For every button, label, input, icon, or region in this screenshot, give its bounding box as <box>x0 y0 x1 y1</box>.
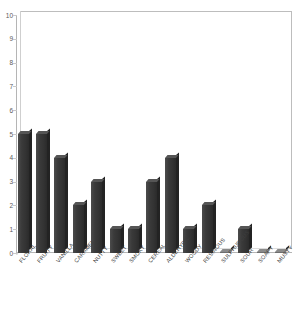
bar-group[interactable] <box>73 15 89 253</box>
bar-top-face <box>91 179 105 182</box>
bar-side-face <box>157 176 160 250</box>
x-axis-labels: FLORALFRUITYVANILLACARAMELNUTTYSWEETSMOK… <box>0 258 296 309</box>
y-axis-tick-label: 4 <box>0 154 13 161</box>
bar[interactable] <box>18 134 29 253</box>
bars-layer <box>16 15 292 253</box>
bar-side-face <box>29 128 32 250</box>
bar[interactable] <box>54 158 65 253</box>
y-axis-tick-label: 1 <box>0 226 13 233</box>
bar-group[interactable] <box>18 15 34 253</box>
bar-group[interactable] <box>238 15 254 253</box>
y-axis-tick-label: 10 <box>0 12 13 19</box>
bar-side-face <box>176 152 179 250</box>
bar[interactable] <box>165 158 176 253</box>
bar-chart: 012345678910 FLORALFRUITYVANILLACARAMELN… <box>0 0 296 309</box>
y-axis-tick-label: 9 <box>0 35 13 42</box>
bar-group[interactable] <box>54 15 70 253</box>
bar[interactable] <box>36 134 47 253</box>
y-axis-tick-label: 5 <box>0 131 13 138</box>
bar[interactable] <box>146 182 157 253</box>
y-axis-tick-label: 3 <box>0 178 13 185</box>
bar-side-face <box>47 128 50 250</box>
bar-group[interactable] <box>165 15 181 253</box>
y-axis-tick-label: 2 <box>0 202 13 209</box>
bar-group[interactable] <box>275 15 291 253</box>
bar-top-face <box>18 131 32 134</box>
bar-side-face <box>102 176 105 250</box>
y-axis-tick-label: 6 <box>0 107 13 114</box>
bar-top-face <box>36 131 50 134</box>
y-axis-tick-label: 0 <box>0 250 13 257</box>
bar-group[interactable] <box>202 15 218 253</box>
bar-group[interactable] <box>183 15 199 253</box>
bar-group[interactable] <box>146 15 162 253</box>
y-axis-tick-mark <box>13 253 17 254</box>
y-axis-tick-label: 8 <box>0 59 13 66</box>
bar-side-face <box>65 152 68 250</box>
chart-top-margin <box>0 0 296 7</box>
bar-group[interactable] <box>36 15 52 253</box>
bar-group[interactable] <box>257 15 273 253</box>
bar-group[interactable] <box>110 15 126 253</box>
bar-top-face <box>165 155 179 158</box>
bar-group[interactable] <box>220 15 236 253</box>
bar-group[interactable] <box>91 15 107 253</box>
bar-top-face <box>202 202 216 205</box>
y-axis-tick-label: 7 <box>0 83 13 90</box>
bar-top-face <box>110 226 124 229</box>
bar-group[interactable] <box>128 15 144 253</box>
